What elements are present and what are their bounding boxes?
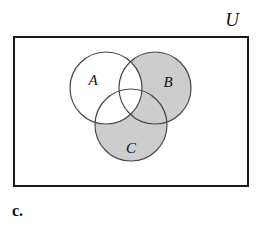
universe-label: U [225, 9, 240, 30]
set-label-b: B [163, 74, 172, 90]
venn-diagram-figure: A B C U c. [0, 0, 264, 230]
set-label-a: A [87, 72, 98, 88]
venn-diagram-canvas: A B C U c. [0, 0, 264, 230]
figure-caption: c. [12, 202, 23, 219]
set-label-c: C [126, 140, 137, 156]
